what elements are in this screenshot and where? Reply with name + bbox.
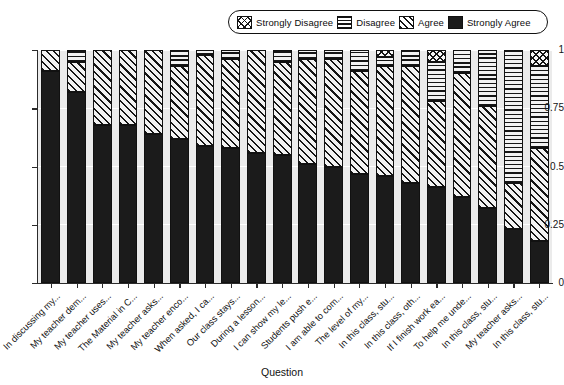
legend-swatch-strongly-disagree-icon <box>237 16 252 29</box>
bar-stack <box>247 50 266 283</box>
bar-segment-disagree <box>350 50 369 71</box>
bar-segment-strongly-agree <box>324 167 343 284</box>
bar-segment-strongly-agree <box>273 155 292 283</box>
bar-stack <box>67 50 86 283</box>
bar-stack <box>170 50 189 283</box>
bar-segment-strongly-disagree <box>427 50 446 62</box>
bar-segment-agree <box>196 55 215 146</box>
bar-segment-disagree <box>376 57 395 66</box>
bar-segment-strongly-agree <box>144 134 163 283</box>
x-axis-tick-mark <box>205 284 206 288</box>
bar-segment-strongly-agree <box>427 187 446 283</box>
bar-stack <box>119 50 138 283</box>
bar-segment-agree <box>376 66 395 176</box>
x-axis-tick-mark <box>539 284 540 288</box>
bar-segment-strongly-agree <box>247 153 266 283</box>
bar-segment-disagree <box>221 50 240 59</box>
bar-segment-agree <box>273 62 292 155</box>
legend-item-strongly-agree: Strongly Agree <box>448 16 531 29</box>
bar-segment-disagree <box>67 50 86 62</box>
bar-segment-strongly-agree <box>196 146 215 283</box>
y-axis-tick-label: 0 <box>530 277 564 288</box>
bar-stack <box>93 50 112 283</box>
y-axis-tick-mark <box>32 283 37 284</box>
bar-segment-agree <box>144 50 163 134</box>
legend-swatch-strongly-agree-icon <box>448 16 463 29</box>
legend-label-strongly-agree: Strongly Agree <box>467 17 531 28</box>
y-axis-tick-mark <box>32 108 37 109</box>
bar-stack <box>350 50 369 283</box>
x-axis-tick-mark <box>179 284 180 288</box>
bar-segment-strongly-agree <box>478 208 497 283</box>
legend-item-disagree: Disagree <box>337 16 395 29</box>
bar-segment-agree <box>478 106 497 209</box>
gridline <box>38 50 552 51</box>
bar-stack <box>401 50 420 283</box>
y-axis-tick-label: 1 <box>530 44 564 55</box>
bar-stack <box>376 50 395 283</box>
gridline <box>38 224 552 225</box>
bar-segment-agree <box>324 59 343 166</box>
gridline <box>38 166 552 167</box>
chart-canvas: Strongly Disagree Disagree Agree Strongl… <box>0 0 564 385</box>
bar-stack <box>453 50 472 283</box>
bar-segment-strongly-agree <box>504 229 523 283</box>
bar-segment-agree <box>119 50 138 125</box>
x-axis-tick-mark <box>51 284 52 288</box>
legend-item-agree: Agree <box>399 16 444 29</box>
legend-item-strongly-disagree: Strongly Disagree <box>237 16 333 29</box>
bar-stack <box>41 50 60 283</box>
bar-segment-disagree <box>453 50 472 73</box>
bar-stack <box>196 50 215 283</box>
x-axis-tick-mark <box>488 284 489 288</box>
x-axis-tick-mark <box>282 284 283 288</box>
x-axis-tick-mark <box>411 284 412 288</box>
bar-segment-disagree <box>298 50 317 59</box>
legend-swatch-agree-icon <box>399 16 414 29</box>
bar-segment-strongly-agree <box>93 125 112 283</box>
bar-segment-strongly-disagree <box>376 50 395 57</box>
x-axis-tick-mark <box>334 284 335 288</box>
bar-segment-agree <box>170 66 189 138</box>
bar-segment-strongly-agree <box>453 197 472 283</box>
bar-stack <box>221 50 240 283</box>
bar-segment-agree <box>427 101 446 187</box>
bar-segment-strongly-agree <box>170 139 189 283</box>
bar-segment-strongly-agree <box>298 164 317 283</box>
x-axis-tick-mark <box>256 284 257 288</box>
y-axis-tick-label: 0.75 <box>530 102 564 113</box>
x-axis-tick-mark <box>436 284 437 288</box>
bar-segment-agree <box>453 73 472 196</box>
bar-segment-strongly-agree <box>119 125 138 283</box>
x-axis-tick-mark <box>128 284 129 288</box>
x-axis-title: Question <box>0 366 564 378</box>
bar-segment-disagree <box>504 50 523 183</box>
bar-segment-strongly-agree <box>376 176 395 283</box>
bar-segment-disagree <box>427 62 446 102</box>
bar-segment-disagree <box>478 50 497 106</box>
bar-segment-agree <box>247 50 266 153</box>
bar-segment-strongly-agree <box>41 71 60 283</box>
gridline <box>38 108 552 109</box>
x-axis-tick-mark <box>154 284 155 288</box>
x-axis-tick-mark <box>462 284 463 288</box>
chart-legend: Strongly Disagree Disagree Agree Strongl… <box>228 10 548 34</box>
y-axis-tick-mark <box>32 225 37 226</box>
bar-segment-disagree <box>196 50 215 55</box>
y-axis-tick-mark <box>32 167 37 168</box>
x-axis-tick-mark <box>359 284 360 288</box>
bar-segment-disagree <box>170 50 189 66</box>
bar-segment-disagree <box>324 50 343 59</box>
bar-segment-agree <box>67 62 86 92</box>
bar-segment-agree <box>350 71 369 174</box>
legend-label-strongly-disagree: Strongly Disagree <box>256 17 333 28</box>
bar-segment-disagree <box>273 50 292 62</box>
x-axis-tick-mark <box>77 284 78 288</box>
y-axis-line <box>37 50 38 284</box>
x-axis-tick-mark <box>513 284 514 288</box>
bar-stack <box>324 50 343 283</box>
bar-segment-agree <box>221 59 240 148</box>
bar-segment-agree <box>41 50 60 71</box>
bar-segment-strongly-agree <box>221 148 240 283</box>
legend-label-disagree: Disagree <box>356 17 395 28</box>
